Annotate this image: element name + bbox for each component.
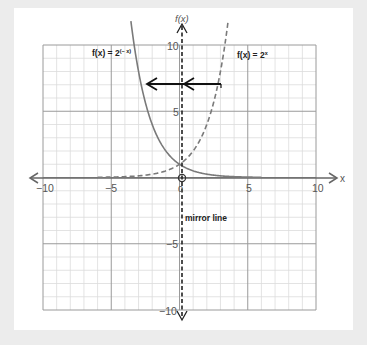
mirror-line: [177, 24, 187, 320]
tick-x-m5: −5: [105, 182, 117, 194]
exponential-reflection-chart: −10 −5 5 10 10 5 −5 −10 0 x f(x) f(x) = …: [0, 0, 367, 345]
reflection-arrows: [147, 78, 221, 90]
tick-y-m10: −10: [159, 305, 177, 317]
mirror-line-label: mirror line: [185, 213, 227, 223]
x-axis-label: x: [340, 173, 345, 184]
label-2-pow-x: f(x) = 2x: [237, 50, 269, 61]
tick-y-m5: −5: [166, 238, 178, 250]
tick-x-5: 5: [246, 182, 252, 194]
tick-origin: 0: [178, 184, 183, 194]
tick-y-10: 10: [167, 40, 179, 52]
tick-x-m10: −10: [36, 182, 54, 194]
tick-x-10: 10: [312, 182, 324, 194]
tick-y-5: 5: [173, 106, 179, 118]
fx-axis-label: f(x): [175, 13, 189, 24]
label-2-pow-neg-x: f(x) = 2(− x): [92, 48, 131, 59]
